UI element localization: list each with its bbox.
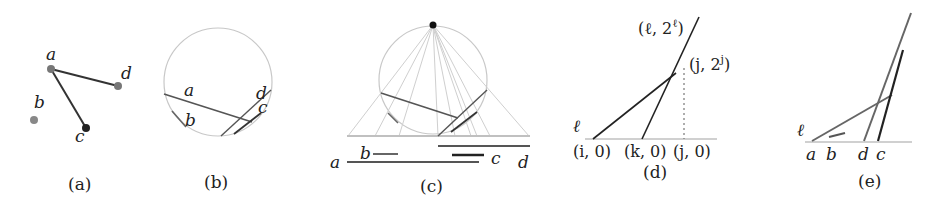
label-c: c xyxy=(258,97,268,117)
chord-d xyxy=(438,90,487,136)
line-ell xyxy=(593,73,676,139)
point-a xyxy=(47,65,55,73)
caption-b: (b) xyxy=(204,172,228,192)
label-b: b xyxy=(360,143,371,163)
label-a: a xyxy=(46,44,56,64)
label-c: c xyxy=(876,144,886,164)
label-d: d xyxy=(858,144,869,164)
caption-a: (a) xyxy=(68,174,91,194)
panel-a: a d b c (a) xyxy=(30,44,132,194)
point-d xyxy=(114,82,122,90)
projection-point xyxy=(430,22,437,29)
chord-a xyxy=(381,93,458,118)
figure: a d b c (a) a b d c (b) xyxy=(0,0,939,210)
chord-b xyxy=(388,113,398,123)
label-ell: ℓ xyxy=(797,120,804,140)
label-a: a xyxy=(806,144,816,164)
edge-a-c xyxy=(51,69,86,128)
point-b xyxy=(30,116,38,124)
chord-c xyxy=(234,113,261,134)
label-d: d xyxy=(121,63,132,83)
caption-e: (e) xyxy=(858,171,881,191)
projection-rays xyxy=(348,25,529,136)
label-a: a xyxy=(330,152,340,172)
label-top: (ℓ, 2ℓ) xyxy=(638,17,684,38)
panel-c: a b c d (c) xyxy=(330,22,530,197)
chord-b xyxy=(172,111,186,127)
label-k0: (k, 0) xyxy=(624,142,667,161)
line-d xyxy=(864,13,911,141)
label-d: d xyxy=(518,152,529,172)
label-a: a xyxy=(184,80,194,100)
panel-b: a b d c (b) xyxy=(164,28,272,192)
label-mid: (j, 2j) xyxy=(689,53,730,74)
label-c: c xyxy=(75,126,85,146)
label-b: b xyxy=(185,110,196,130)
caption-d: (d) xyxy=(643,162,667,182)
line-b xyxy=(829,133,845,137)
edge-a-d xyxy=(51,69,118,86)
label-i0: (i, 0) xyxy=(573,142,611,161)
panel-d: ℓ (ℓ, 2ℓ) (j, 2j) (i, 0) (k, 0) (j, 0) (… xyxy=(573,17,730,182)
label-j0: (j, 0) xyxy=(673,142,711,161)
label-c: c xyxy=(491,148,501,168)
label-b: b xyxy=(826,144,837,164)
label-ell: ℓ xyxy=(573,116,580,136)
label-b: b xyxy=(34,92,45,112)
panel-e: ℓ a b d c (e) xyxy=(797,13,912,191)
caption-c: (c) xyxy=(420,176,443,196)
